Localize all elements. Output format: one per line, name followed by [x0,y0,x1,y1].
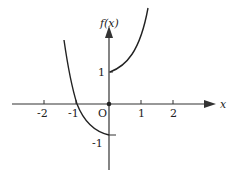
x-tick-label: -2 [37,107,48,120]
y-tick-label: -1 [92,137,103,150]
x-tick-label: 1 [138,107,145,120]
x-axis-label: x [220,98,227,111]
x-tick-label: -1 [68,107,79,120]
origin-point [107,102,112,107]
y-tick-label: 1 [98,66,105,79]
x-tick-label: 2 [170,107,177,120]
x-axis-arrow-icon [204,100,216,108]
origin-label: O [98,107,107,120]
y-axis-label: f(x) [99,17,119,30]
function-graph: -2 -1 1 2 1 -1 O x f(x) [0,0,235,176]
plot-canvas: -2 -1 1 2 1 -1 O x f(x) [0,0,235,176]
curve-left-branch [64,40,109,135]
